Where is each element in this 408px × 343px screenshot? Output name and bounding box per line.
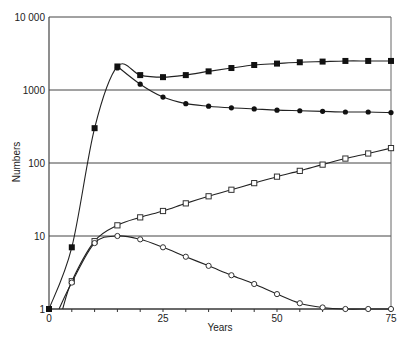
open-circle-marker bbox=[229, 273, 234, 278]
open-circle-marker bbox=[69, 280, 74, 285]
open-circle-marker bbox=[183, 254, 188, 259]
filled-circle-marker bbox=[183, 101, 188, 106]
filled-square-marker bbox=[388, 58, 394, 64]
y-axis-title: Numbers bbox=[11, 142, 22, 183]
open-circle-marker bbox=[274, 291, 279, 296]
series-line bbox=[63, 148, 391, 309]
series-line bbox=[59, 236, 391, 309]
filled-circle-marker bbox=[366, 109, 371, 114]
series-layer bbox=[46, 58, 394, 312]
filled-square-marker bbox=[365, 58, 371, 64]
y-tick-label: 1000 bbox=[23, 85, 46, 96]
filled-square-marker bbox=[320, 59, 326, 65]
filled-square-marker bbox=[160, 74, 166, 80]
y-tick-label: 10 bbox=[34, 231, 46, 242]
open-circle-marker bbox=[366, 306, 371, 311]
open-square-marker bbox=[138, 215, 143, 220]
x-tick-label: 75 bbox=[385, 313, 397, 324]
filled-square-marker bbox=[92, 125, 98, 131]
open-square-marker bbox=[343, 156, 348, 161]
filled-square-marker bbox=[183, 72, 189, 78]
x-axis-title: Years bbox=[207, 322, 232, 333]
filled-circle-marker bbox=[320, 109, 325, 114]
filled-square-marker bbox=[69, 244, 75, 250]
filled-circle-marker bbox=[297, 108, 302, 113]
filled-square-marker bbox=[228, 65, 234, 71]
series-filled-square bbox=[46, 58, 394, 312]
series-line bbox=[49, 61, 391, 309]
open-square-marker bbox=[160, 208, 165, 213]
filled-circle-marker bbox=[229, 105, 234, 110]
series-open-square bbox=[63, 145, 394, 309]
filled-square-marker bbox=[274, 61, 280, 67]
open-square-marker bbox=[297, 168, 302, 173]
filled-circle-marker bbox=[115, 65, 120, 70]
open-circle-marker bbox=[343, 306, 348, 311]
x-tick-label: 0 bbox=[46, 313, 52, 324]
open-square-marker bbox=[388, 145, 393, 150]
filled-square-marker bbox=[206, 68, 212, 74]
y-tick-label: 10 000 bbox=[14, 12, 45, 23]
open-square-marker bbox=[183, 201, 188, 206]
filled-circle-marker bbox=[388, 110, 393, 115]
filled-square-marker bbox=[297, 59, 303, 65]
open-square-marker bbox=[206, 194, 211, 199]
filled-square-marker bbox=[46, 306, 52, 312]
open-circle-marker bbox=[297, 301, 302, 306]
y-tick-label: 1 bbox=[39, 304, 45, 315]
filled-circle-marker bbox=[343, 109, 348, 114]
open-square-marker bbox=[274, 174, 279, 179]
series-open-circle bbox=[59, 233, 394, 311]
filled-circle-marker bbox=[252, 106, 257, 111]
open-circle-marker bbox=[92, 240, 97, 245]
filled-square-marker bbox=[342, 58, 348, 64]
open-circle-marker bbox=[206, 263, 211, 268]
open-circle-marker bbox=[160, 245, 165, 250]
filled-circle-marker bbox=[138, 82, 143, 87]
filled-square-marker bbox=[137, 72, 143, 78]
open-circle-marker bbox=[320, 305, 325, 310]
y-tick-label: 100 bbox=[28, 158, 45, 169]
filled-circle-marker bbox=[160, 94, 165, 99]
tick-labels: 110100100010 0000255075 bbox=[14, 12, 397, 325]
x-tick-label: 25 bbox=[157, 313, 169, 324]
filled-square-marker bbox=[251, 62, 257, 68]
open-circle-marker bbox=[115, 233, 120, 238]
chart: 110100100010 0000255075 Years Numbers bbox=[0, 0, 408, 343]
open-circle-marker bbox=[388, 306, 393, 311]
open-square-marker bbox=[320, 162, 325, 167]
filled-circle-marker bbox=[206, 104, 211, 109]
open-circle-marker bbox=[252, 281, 257, 286]
open-square-marker bbox=[366, 151, 371, 156]
open-circle-marker bbox=[138, 237, 143, 242]
filled-circle-marker bbox=[274, 108, 279, 113]
open-square-marker bbox=[252, 181, 257, 186]
open-square-marker bbox=[115, 223, 120, 228]
x-tick-label: 50 bbox=[271, 313, 283, 324]
open-square-marker bbox=[229, 187, 234, 192]
